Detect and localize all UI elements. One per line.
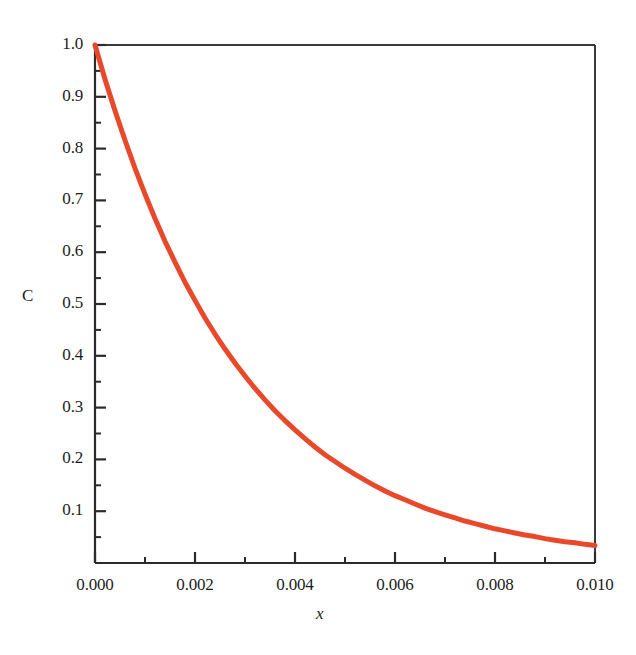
y-tick-label: 0.2 (29, 448, 83, 468)
x-tick-label: 0.004 (250, 575, 340, 595)
data-series-line (95, 45, 595, 545)
x-tick-label: 0.010 (550, 575, 636, 595)
y-tick-label: 0.6 (29, 241, 83, 261)
y-tick-label: 0.7 (29, 189, 83, 209)
y-tick-label: 0.4 (29, 345, 83, 365)
plot-canvas (0, 0, 636, 655)
x-tick-label: 0.008 (450, 575, 540, 595)
y-tick-label: 0.3 (29, 397, 83, 417)
x-tick-label: 0.000 (50, 575, 140, 595)
axes-frame (95, 45, 595, 563)
y-tick-label: 1.0 (29, 34, 83, 54)
x-axis-title: x (316, 604, 324, 624)
y-tick-label: 0.5 (29, 293, 83, 313)
x-tick-label: 0.006 (350, 575, 440, 595)
y-tick-label: 0.1 (29, 500, 83, 520)
y-tick-label: 0.9 (29, 86, 83, 106)
chart-figure: 1.00.90.80.70.60.50.40.30.20.1 0.0000.00… (0, 0, 636, 655)
y-axis-title: C (22, 286, 33, 306)
x-tick-label: 0.002 (150, 575, 240, 595)
y-tick-label: 0.8 (29, 138, 83, 158)
